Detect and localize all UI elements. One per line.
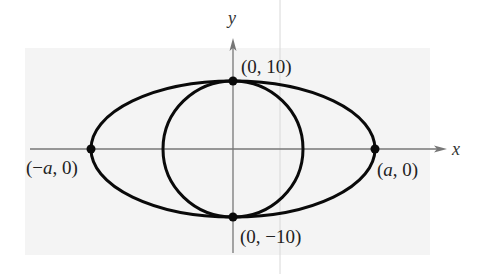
- point-left: [87, 145, 96, 154]
- label-bottom: (0, −10): [240, 226, 301, 248]
- x-axis-label: x: [451, 139, 460, 159]
- background-panel: [25, 48, 430, 255]
- label-right: (a, 0): [377, 159, 418, 181]
- point-bottom: [229, 213, 238, 222]
- label-right-close: , 0): [393, 159, 418, 181]
- label-left-open: (−: [26, 157, 43, 179]
- label-left-close: , 0): [53, 157, 78, 179]
- label-right-var: a: [383, 159, 393, 180]
- label-top: (0, 10): [241, 56, 292, 78]
- point-right: [371, 145, 380, 154]
- label-left: (−a, 0): [26, 157, 78, 179]
- label-left-var: a: [43, 157, 53, 178]
- diagram: x y (0, 10) (0, −10) (−a, 0) (a, 0): [0, 0, 481, 274]
- point-top: [229, 77, 238, 86]
- diagram-canvas: x y (0, 10) (0, −10) (−a, 0) (a, 0): [0, 0, 481, 274]
- y-axis-label: y: [226, 8, 236, 28]
